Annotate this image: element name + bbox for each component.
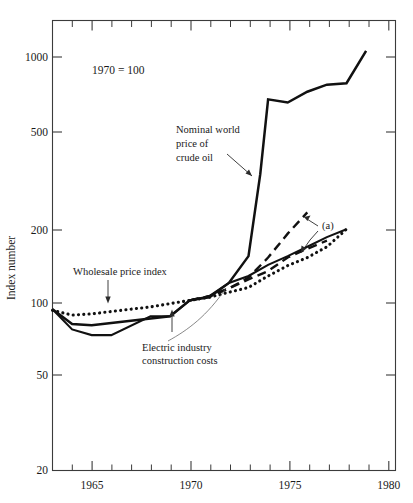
x-tick-label-1965: 1965 [81,479,104,491]
line-chart: 1000 500 200 100 50 20 1965 1970 1975 19… [0,0,413,503]
x-tick-label-1980: 1980 [377,479,400,491]
annotation-wholesale: Wholesale price index [73,266,168,304]
annotation-crude-oil: Nominal world price of crude oil [176,124,252,176]
y-tick-label-20: 20 [37,464,49,476]
electric-leader-curve [168,288,226,341]
y-tick-label-200: 200 [31,224,49,236]
y-tick-label-100: 100 [31,297,49,309]
figure-container: 1000 500 200 100 50 20 1965 1970 1975 19… [0,0,413,503]
projection-label: (a) [322,220,334,232]
y-tick-label-1000: 1000 [25,51,48,63]
y-axis-title: Index number [5,236,17,300]
electric-label-line1: Electric industry [142,342,212,353]
annotation-electric-industry: Electric industry construction costs [142,288,226,366]
oil-leader-arrowhead [246,170,253,177]
x-axis-ticks [72,21,389,471]
y-axis-ticks-left [53,57,63,375]
oil-label-line3: crude oil [176,152,213,163]
series-crude-oil-price [53,51,367,325]
oil-label-line1: Nominal world [176,124,241,135]
projection-leader-upper [307,219,318,226]
x-tick-label-1975: 1975 [278,479,301,491]
electric-label-line2: construction costs [142,355,218,366]
y-tick-label-500: 500 [31,126,49,138]
y-tick-label-50: 50 [37,369,49,381]
oil-label-line2: price of [176,138,209,149]
y-axis-ticks-right [386,57,396,375]
scale-note: 1970 = 100 [92,64,145,76]
plot-frame [53,21,396,471]
x-tick-label-1970: 1970 [180,479,203,491]
wholesale-label: Wholesale price index [73,266,168,277]
wholesale-leader-arrowhead [105,297,110,304]
